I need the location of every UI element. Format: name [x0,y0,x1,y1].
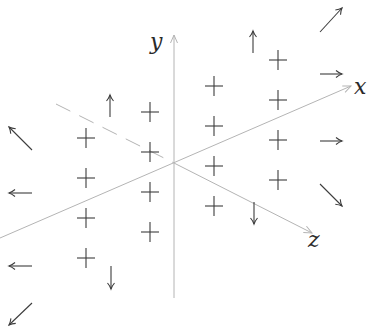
plus-sign-icon [141,102,159,122]
plus-sign-icon [269,50,287,70]
plus-sign-icon [141,222,159,242]
plus-sign-icon [77,128,95,148]
z-axis-hidden-dashed [56,104,174,163]
plus-sign-icon [77,248,95,268]
plus-sign-icon [269,90,287,110]
southwest-arrow-icon [9,303,32,325]
plus-sign-icon [205,196,223,216]
axis-label-x: x [354,74,367,99]
plus-sign-icon [141,142,159,162]
northwest-arrow-icon [9,127,32,150]
field-arrows-group [9,8,342,325]
plus-sign-icon [77,208,95,228]
z-axis [174,163,312,233]
plus-sign-icon [77,168,95,188]
northeast-arrow-icon [320,8,342,32]
axis-label-y: y [149,29,163,54]
southeast-arrow-icon [320,184,342,206]
x-axis [0,86,351,238]
plus-sign-icon [269,170,287,190]
plus-sign-icon [141,182,159,202]
vector-field-diagram: y x z [0,0,367,331]
plus-sign-icon [269,130,287,150]
plus-sign-icon [205,76,223,96]
axis-label-z: z [307,227,320,252]
plus-sign-icon [205,156,223,176]
axes-group [0,35,351,298]
plus-sign-icon [205,116,223,136]
